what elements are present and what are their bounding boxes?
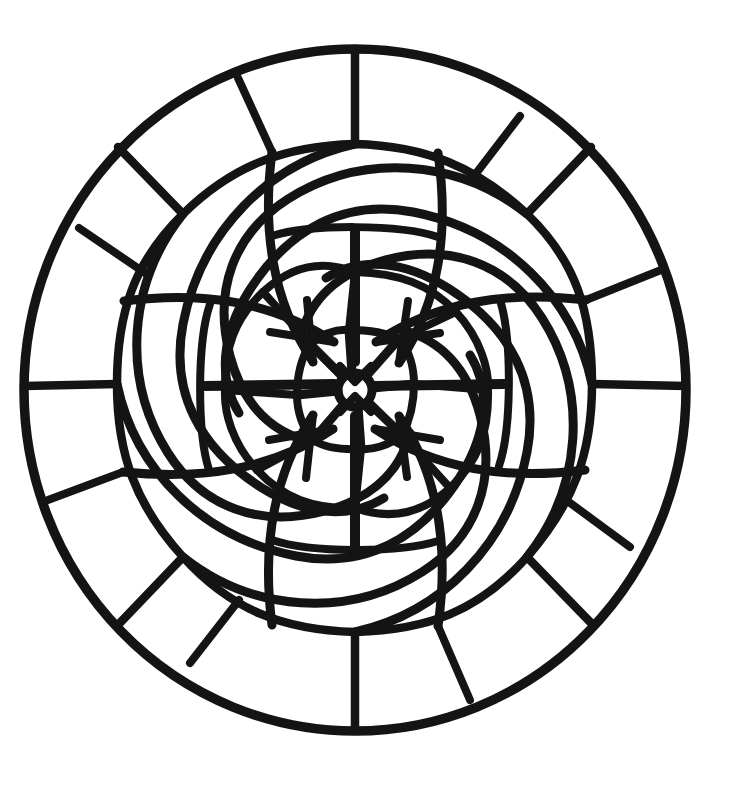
hub-spoke-1 [349,330,352,373]
hub-spoke-7 [297,391,338,395]
hub-spoke-5 [358,406,361,449]
outer-spoke-e [592,384,686,386]
artwork-canvas: Rose Window Mandala Coloring Page Eight-… [0,0,748,788]
inner-divider-7 [225,390,297,395]
outer-spoke-w [24,384,117,386]
mandala-line-art: Rose Window Mandala Coloring Page Eight-… [0,0,748,788]
hub-spoke-3 [373,384,414,388]
